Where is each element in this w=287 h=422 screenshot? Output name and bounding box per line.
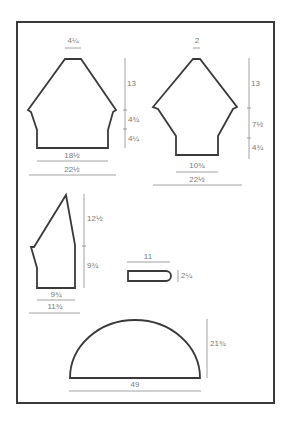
sleeve-lower-height-label: 9¾ (87, 262, 98, 270)
sleeve-full-width-label: 11¾ (48, 303, 63, 311)
back-piece (28, 59, 116, 148)
back-mid-height-label: 4¾ (128, 116, 139, 124)
strap-width-label: 11 (144, 253, 152, 261)
sleeve-piece (31, 195, 75, 288)
strap-height-label: 2¼ (181, 272, 192, 280)
front-full-width-label: 22½ (189, 176, 205, 184)
schematic-drawing (0, 0, 287, 422)
front-bottom-width-label: 10¾ (189, 162, 205, 170)
front-lower-height-label: 4¾ (252, 144, 263, 152)
front-top-width-label: 2 (195, 37, 199, 45)
half-circle-piece (70, 320, 200, 378)
sleeve-bottom-width-label: 9¾ (50, 291, 61, 299)
back-lower-height-label: 4¼ (128, 135, 139, 143)
half-circle-width-label: 49 (131, 381, 140, 389)
back-upper-height-label: 13 (127, 80, 136, 88)
back-top-width-label: 4¼ (67, 37, 78, 45)
back-full-width-label: 22½ (64, 166, 80, 174)
front-piece (153, 59, 237, 155)
back-bottom-width-label: 18½ (64, 152, 80, 160)
front-mid-height-label: 7½ (252, 121, 263, 129)
sleeve-upper-height-label: 12½ (87, 215, 103, 223)
front-upper-height-label: 13 (251, 80, 260, 88)
half-circle-height-label: 21¾ (210, 340, 226, 348)
strap-piece (128, 271, 171, 281)
